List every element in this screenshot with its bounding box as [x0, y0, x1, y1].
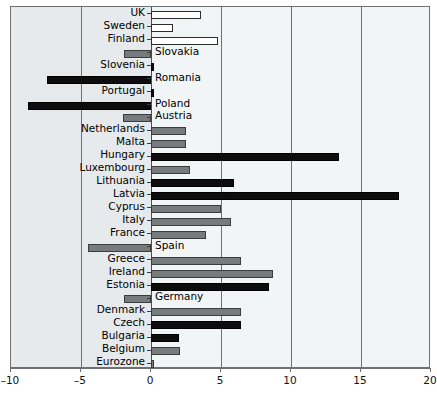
- y-tick: [147, 65, 151, 66]
- category-label-netherlands: Netherlands: [81, 122, 145, 135]
- bar-row: Malta: [11, 136, 429, 149]
- x-axis: –10–505101520: [10, 368, 430, 398]
- bar-row: Latvia: [11, 188, 429, 201]
- category-label-austria: Austria: [155, 109, 192, 122]
- x-tick--5: [80, 368, 81, 372]
- bar-row: Italy: [11, 214, 429, 227]
- bar-slovakia: [124, 50, 151, 58]
- x-tick-label-5: 5: [217, 374, 224, 386]
- bar-romania: [47, 76, 151, 84]
- x-tick-15: [360, 368, 361, 372]
- bar-row: Poland: [11, 98, 429, 111]
- y-tick: [147, 298, 151, 299]
- bar-row: Bulgaria: [11, 330, 429, 343]
- y-tick: [147, 233, 151, 234]
- y-tick: [147, 324, 151, 325]
- bar-spain: [88, 244, 151, 252]
- bar-row: Germany: [11, 291, 429, 304]
- y-tick: [147, 52, 151, 53]
- y-tick: [147, 272, 151, 273]
- bar-luxembourg: [151, 166, 190, 174]
- y-tick: [147, 246, 151, 247]
- bar-row: Lithuania: [11, 175, 429, 188]
- category-label-portugal: Portugal: [102, 84, 146, 97]
- bar-row: Romania: [11, 72, 429, 85]
- category-label-uk: UK: [130, 6, 145, 19]
- x-tick-label-10: 10: [283, 374, 296, 386]
- bar-italy: [151, 218, 231, 226]
- chart-figure: UKSwedenFinlandSlovakiaSloveniaRomaniaPo…: [0, 0, 437, 398]
- y-tick: [147, 156, 151, 157]
- category-label-belgium: Belgium: [102, 342, 145, 355]
- bar-latvia: [151, 192, 399, 200]
- category-label-spain: Spain: [155, 239, 184, 252]
- bar-row: Denmark: [11, 304, 429, 317]
- y-tick: [147, 182, 151, 183]
- category-label-estonia: Estonia: [106, 278, 145, 291]
- y-tick: [147, 13, 151, 14]
- x-tick-label-0: 0: [147, 374, 154, 386]
- category-label-ireland: Ireland: [109, 265, 145, 278]
- bar-row: Hungary: [11, 149, 429, 162]
- category-label-bulgaria: Bulgaria: [101, 329, 145, 342]
- category-label-lithuania: Lithuania: [96, 174, 145, 187]
- y-tick: [147, 78, 151, 79]
- category-label-slovenia: Slovenia: [100, 58, 145, 71]
- bar-eurozone: [151, 360, 154, 368]
- category-label-slovakia: Slovakia: [155, 45, 199, 58]
- bar-poland: [28, 102, 151, 110]
- category-label-czech: Czech: [113, 316, 145, 329]
- bar-row: Ireland: [11, 266, 429, 279]
- bar-row: Sweden: [11, 20, 429, 33]
- category-label-sweden: Sweden: [104, 19, 146, 32]
- bar-lithuania: [151, 179, 234, 187]
- category-label-latvia: Latvia: [113, 187, 145, 200]
- y-tick: [147, 130, 151, 131]
- bar-ireland: [151, 270, 273, 278]
- category-label-italy: Italy: [122, 213, 145, 226]
- category-label-france: France: [110, 226, 145, 239]
- x-tick-label--5: –5: [74, 374, 86, 386]
- bar-row: Finland: [11, 33, 429, 46]
- bar-row: Belgium: [11, 343, 429, 356]
- category-label-cyprus: Cyprus: [108, 200, 145, 213]
- bar-row: UK: [11, 7, 429, 20]
- bar-slovenia: [151, 63, 154, 71]
- category-label-germany: Germany: [155, 290, 203, 303]
- category-label-luxembourg: Luxembourg: [80, 161, 145, 174]
- y-tick: [147, 39, 151, 40]
- category-label-hungary: Hungary: [100, 148, 145, 161]
- bar-greece: [151, 257, 241, 265]
- bar-row: Cyprus: [11, 201, 429, 214]
- y-tick: [147, 350, 151, 351]
- category-label-finland: Finland: [107, 32, 145, 45]
- bar-row: Czech: [11, 317, 429, 330]
- category-label-poland: Poland: [155, 97, 190, 110]
- plot-area: UKSwedenFinlandSlovakiaSloveniaRomaniaPo…: [10, 6, 430, 368]
- y-tick: [147, 91, 151, 92]
- bar-row: France: [11, 227, 429, 240]
- bar-czech: [151, 321, 241, 329]
- bar-row: Slovenia: [11, 59, 429, 72]
- bar-row: Greece: [11, 253, 429, 266]
- x-tick-label-20: 20: [423, 374, 436, 386]
- y-tick: [147, 363, 151, 364]
- category-label-romania: Romania: [155, 71, 201, 84]
- bar-belgium: [151, 347, 180, 355]
- category-label-greece: Greece: [108, 252, 145, 265]
- y-tick: [147, 311, 151, 312]
- bar-row: Spain: [11, 240, 429, 253]
- bar-row: Portugal: [11, 85, 429, 98]
- y-tick: [147, 194, 151, 195]
- x-tick-0: [150, 368, 151, 372]
- y-tick: [147, 220, 151, 221]
- y-tick: [147, 104, 151, 105]
- bar-portugal: [151, 89, 154, 97]
- bar-estonia: [151, 283, 269, 291]
- bar-denmark: [151, 308, 241, 316]
- bar-row: Luxembourg: [11, 162, 429, 175]
- bar-bulgaria: [151, 334, 179, 342]
- y-tick: [147, 207, 151, 208]
- x-tick-label--10: –10: [1, 374, 20, 386]
- category-label-eurozone: Eurozone: [96, 355, 145, 368]
